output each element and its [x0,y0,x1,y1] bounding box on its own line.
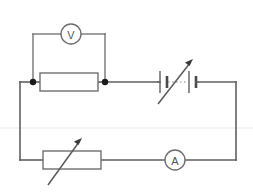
fixed-resistor-body [40,73,98,91]
left-junction-dot [30,79,36,85]
circuit-schematic: V A [0,0,253,193]
battery-variable-arrow-shaft [158,63,190,104]
circuit-diagram-canvas: V A [0,0,253,193]
variable-resistor-body [43,151,101,169]
battery-variable-arrow-head [185,59,193,66]
ammeter-label: A [171,155,179,167]
voltmeter-label: V [67,29,75,41]
variable-resistor-arrow-head [74,138,82,145]
right-junction-dot [102,79,108,85]
